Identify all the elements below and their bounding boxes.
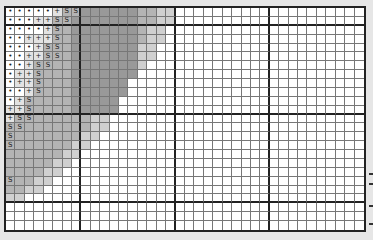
grid-cell xyxy=(213,177,222,186)
grid-cell xyxy=(176,35,185,44)
grid-cell xyxy=(34,221,43,230)
grid-cell xyxy=(110,159,119,168)
grid-cell xyxy=(270,88,279,97)
grid-cell xyxy=(204,115,213,124)
grid-cell xyxy=(213,70,222,79)
grid-cell-dot: • xyxy=(6,97,15,106)
grid-cell xyxy=(260,194,269,203)
grid-cell xyxy=(72,203,81,212)
grid-cell xyxy=(251,177,260,186)
grid-cell xyxy=(128,79,137,88)
grid-cell xyxy=(110,88,119,97)
grid-cell xyxy=(176,212,185,221)
grid-cell xyxy=(185,17,194,26)
grid-cell xyxy=(336,52,345,61)
grid-cell xyxy=(100,150,109,159)
grid-cell xyxy=(326,70,335,79)
grid-cell xyxy=(345,44,354,53)
grid-cell xyxy=(15,132,24,141)
grid-cell xyxy=(34,177,43,186)
grid-cell xyxy=(213,203,222,212)
grid-cell xyxy=(166,97,175,106)
grid-cell xyxy=(355,26,364,35)
grid-cell xyxy=(204,186,213,195)
grid-cell-s: S xyxy=(34,79,43,88)
grid-cell xyxy=(91,97,100,106)
grid-cell-dot: • xyxy=(15,17,24,26)
grid-cell xyxy=(194,115,203,124)
grid-cell xyxy=(289,79,298,88)
grid-cell xyxy=(307,141,316,150)
grid-cell xyxy=(147,61,156,70)
grid-cell xyxy=(194,97,203,106)
grid-cell xyxy=(53,106,62,115)
grid-cell xyxy=(260,70,269,79)
grid-cell xyxy=(298,168,307,177)
grid-cell xyxy=(279,221,288,230)
grid-cell xyxy=(91,115,100,124)
grid-cell xyxy=(242,70,251,79)
grid-cell xyxy=(289,221,298,230)
grid-cell xyxy=(317,194,326,203)
grid-cell xyxy=(279,79,288,88)
grid-cell xyxy=(289,52,298,61)
grid-cell xyxy=(100,106,109,115)
grid-cell xyxy=(194,61,203,70)
grid-cell xyxy=(232,97,241,106)
grid-cell xyxy=(279,35,288,44)
grid-cell xyxy=(72,70,81,79)
grid-cell xyxy=(34,123,43,132)
grid-cell xyxy=(232,70,241,79)
grid-cell xyxy=(6,212,15,221)
grid-cell xyxy=(185,61,194,70)
grid-cell xyxy=(355,70,364,79)
grid-cell xyxy=(336,141,345,150)
grid-cell xyxy=(251,159,260,168)
grid-cell xyxy=(166,26,175,35)
grid-cell xyxy=(242,52,251,61)
grid-cell xyxy=(166,79,175,88)
grid-cell xyxy=(298,61,307,70)
grid-cell xyxy=(204,17,213,26)
grid-cell xyxy=(345,97,354,106)
grid-cell xyxy=(100,35,109,44)
grid-cell xyxy=(81,106,90,115)
grid-cell xyxy=(336,35,345,44)
grid-cell xyxy=(336,44,345,53)
grid-cell xyxy=(119,221,128,230)
grid-cell xyxy=(279,123,288,132)
grid-cell xyxy=(307,212,316,221)
grid-cell-s: S xyxy=(6,132,15,141)
grid-cell xyxy=(279,88,288,97)
grid-cell-dot: • xyxy=(15,52,24,61)
grid-cell-dot: • xyxy=(25,44,34,53)
grid-cell xyxy=(6,168,15,177)
grid-cell xyxy=(251,212,260,221)
grid-cell xyxy=(223,150,232,159)
grid-cell xyxy=(34,212,43,221)
grid-cell-dot: • xyxy=(15,8,24,17)
grid-cell xyxy=(336,168,345,177)
grid-cell xyxy=(119,212,128,221)
grid-cell xyxy=(336,79,345,88)
grid-cell xyxy=(100,8,109,17)
grid-cell xyxy=(298,70,307,79)
grid-cell xyxy=(100,70,109,79)
grid-cell xyxy=(53,123,62,132)
grid-cell xyxy=(270,17,279,26)
grid-cell xyxy=(119,26,128,35)
grid-cell xyxy=(91,177,100,186)
grid-cell xyxy=(223,52,232,61)
grid-cell xyxy=(119,115,128,124)
grid-cell xyxy=(110,203,119,212)
grid-cell xyxy=(270,168,279,177)
grid-cell xyxy=(251,186,260,195)
grid-cell xyxy=(100,26,109,35)
grid-cell xyxy=(34,97,43,106)
grid-cell xyxy=(147,132,156,141)
grid-cell xyxy=(251,35,260,44)
grid-cell xyxy=(194,203,203,212)
grid-cell-s: S xyxy=(53,52,62,61)
grid-cell xyxy=(157,221,166,230)
grid-cell xyxy=(232,115,241,124)
